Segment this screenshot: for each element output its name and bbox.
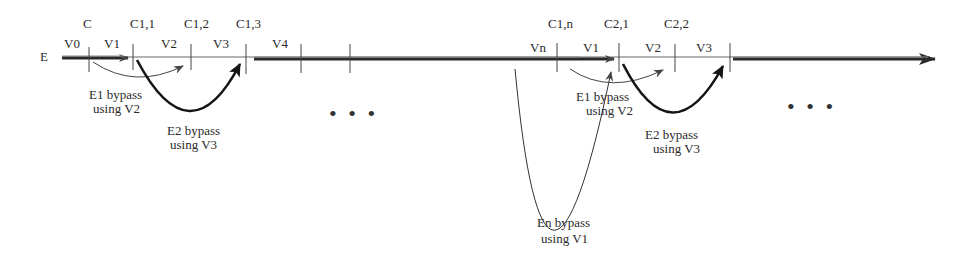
segment-v3-b: V3 <box>696 40 712 55</box>
e1-bypass-arc-2 <box>570 69 663 83</box>
label-c1-n: C1,n <box>548 16 573 31</box>
group1-top-labels: C C1,1 C1,2 C1,3 <box>83 16 261 31</box>
e2-bypass-arc-1 <box>137 60 240 111</box>
segment-v2-b: V2 <box>645 40 661 55</box>
en-bypass-label-line1: En bypass <box>537 215 590 230</box>
label-c1-3: C1,3 <box>236 16 261 31</box>
axis-label-e: E <box>40 49 48 64</box>
segment-vn: Vn <box>530 40 546 55</box>
e2-bypass-label-1-line2: using V3 <box>170 137 217 152</box>
label-c: C <box>83 16 92 31</box>
bypass-diagram: E C C1,1 C1,2 C1,3 V0 V1 V2 V <box>0 0 967 262</box>
e2-bypass-label-2-line1: E2 bypass <box>645 127 698 142</box>
segment-v1: V1 <box>104 36 120 51</box>
label-c1-1: C1,1 <box>130 16 155 31</box>
e2-bypass-label-2-line2: using V3 <box>653 141 700 156</box>
e1-bypass-label-1-line2: using V2 <box>93 101 140 116</box>
segment-v0: V0 <box>64 36 80 51</box>
e2-bypass-label-1-line1: E2 bypass <box>167 123 220 138</box>
e1-bypass-label-2-line2: using V2 <box>586 103 633 118</box>
label-c1-2: C1,2 <box>184 16 209 31</box>
segment-v2: V2 <box>161 36 177 51</box>
segment-v1-b: V1 <box>583 40 599 55</box>
ellipsis-2: • • • <box>787 94 836 119</box>
segment-v3: V3 <box>213 36 229 51</box>
group2-top-labels: C1,n C2,1 C2,2 <box>548 16 689 31</box>
e2-bypass-arc-2 <box>623 64 723 113</box>
e1-bypass-label-2-line1: E1 bypass <box>576 89 629 104</box>
en-bypass-label-line2: using V1 <box>541 231 588 246</box>
e1-bypass-label-1-line1: E1 bypass <box>89 87 142 102</box>
label-c2-2: C2,2 <box>664 16 689 31</box>
label-c2-1: C2,1 <box>604 16 629 31</box>
ellipsis-1: • • • <box>329 101 378 126</box>
segment-v4: V4 <box>272 36 288 51</box>
group1-segment-labels: V0 V1 V2 V3 V4 <box>64 36 288 51</box>
